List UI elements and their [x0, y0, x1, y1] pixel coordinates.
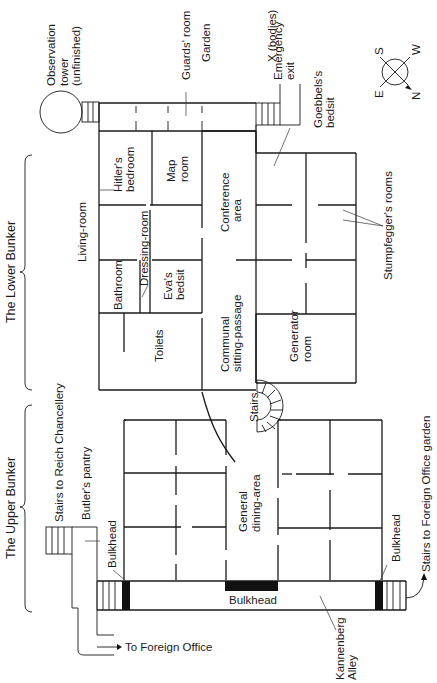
stairs-label: Stairs	[248, 392, 260, 422]
observation-tower-label-3: (unfinished)	[70, 26, 82, 86]
butlers-pantry-label: Butler's pantry	[80, 447, 92, 520]
arrow-to-foreign-office	[97, 644, 122, 650]
eva-bedsit-label-2: bedsit	[174, 269, 186, 300]
goebbels-bedsit-label-1: Goebbels's	[312, 71, 324, 128]
compass-s: S	[373, 47, 385, 55]
emergency-exit-label-2: exit	[284, 61, 296, 80]
bulkhead-right-label: Bulkhead	[390, 514, 402, 562]
eva-bedsit-label-1: Eva's	[162, 272, 174, 300]
garden-label: Garden	[200, 24, 212, 62]
upper-bunker-walls	[46, 420, 406, 655]
generator-room-label-1: Generator	[288, 310, 300, 362]
bulkhead-right	[375, 581, 383, 610]
spiral-stairs	[257, 380, 283, 432]
bunker-floor-plan: The Lower Bunker The Upper Bunker Observ…	[0, 0, 437, 683]
bulkhead-left	[122, 581, 130, 610]
dressing-room-label: Dressing-room	[138, 211, 150, 286]
to-foreign-office-label: To Foreign Office	[125, 641, 212, 653]
map-room-label-1: Map	[165, 160, 177, 182]
hitler-bedroom-label-1: Hitler's	[112, 157, 124, 192]
conference-area-label-2: area	[231, 198, 243, 222]
guards-room-label: Guards' room	[180, 11, 192, 80]
compass-icon	[380, 57, 412, 90]
upper-bunker-brace	[20, 405, 32, 612]
goebbels-bedsit-label-2: bedsit	[324, 97, 336, 128]
compass-e: E	[373, 90, 385, 98]
arrow-to-foreign-office-garden	[406, 573, 427, 598]
stairs-reich-chancellery-label: Stairs to Reich Chancellery	[53, 383, 65, 522]
observation-tower-label-1: Observation	[45, 24, 57, 86]
emergency-exit-label-1: Emergency	[272, 22, 284, 80]
lower-bunker-label: The Lower Bunker	[4, 221, 18, 323]
observation-tower	[40, 91, 99, 133]
toilets-label: Toilets	[153, 329, 165, 362]
lower-bunker-brace	[20, 155, 32, 390]
generator-room-label-2: room	[301, 336, 313, 362]
hitler-bedroom-label-2: bedroom	[124, 147, 136, 192]
observation-tower-label-2: tower	[58, 58, 70, 86]
bulkhead-left-label: Bulkhead	[106, 520, 118, 568]
upper-bunker-label: The Upper Bunker	[4, 457, 18, 559]
communal-passage-label-1: Communal	[219, 316, 231, 372]
map-room-label-2: room	[178, 156, 190, 182]
kannenberg-alley-label-2: Alley	[346, 655, 358, 680]
bulkhead-center-label: Bulkhead	[229, 594, 277, 606]
living-room-label: Living-room	[76, 202, 88, 262]
compass-w: W	[410, 44, 422, 55]
communal-passage-label-2: sitting-passage	[231, 295, 243, 372]
conference-area-label-1: Conference	[219, 173, 231, 232]
dining-area-label-2: dining-area	[250, 474, 262, 532]
bathroom-label: Bathroom	[112, 260, 124, 310]
stumpfegger-rooms-label: Stumpfegger's rooms	[382, 171, 394, 280]
dining-area-label-1: General	[237, 491, 249, 532]
compass-n: N	[410, 92, 422, 100]
stairs-foreign-garden-label: Stairs to Foreign Office garden	[420, 416, 432, 572]
kannenberg-alley-label-1: Kannenberg	[334, 617, 346, 680]
bulkhead-center	[225, 581, 278, 591]
